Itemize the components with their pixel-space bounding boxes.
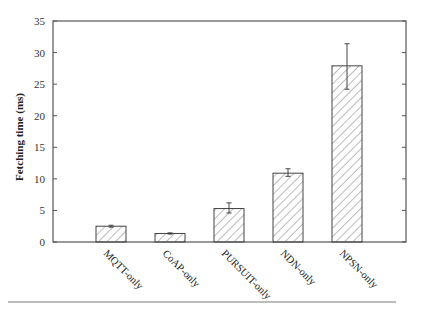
x-tick-label: CoAP-only xyxy=(161,248,203,290)
bar-pursuit-only xyxy=(214,209,244,242)
y-tick-label: 25 xyxy=(34,78,46,90)
x-tick-label: NPSN-only xyxy=(338,248,381,291)
y-tick-label: 0 xyxy=(40,236,46,248)
y-tick-label: 15 xyxy=(34,141,46,153)
bar-ndn-only xyxy=(273,173,303,242)
y-tick-label: 35 xyxy=(34,15,46,27)
x-tick-label: MQTT-only xyxy=(102,248,146,292)
x-tick-label: PURSUIT-only xyxy=(220,248,274,302)
x-tick-label: NDN-only xyxy=(279,248,319,288)
y-tick-label: 5 xyxy=(40,204,46,216)
y-tick-label: 30 xyxy=(34,47,46,59)
bar-chart: 05101520253035MQTT-onlyCoAP-onlyPURSUIT-… xyxy=(0,0,425,316)
bar-coap-only xyxy=(155,233,185,242)
y-tick-label: 10 xyxy=(34,173,46,185)
plot-area: 05101520253035MQTT-onlyCoAP-onlyPURSUIT-… xyxy=(34,15,406,302)
bar-npsn-only xyxy=(332,66,362,242)
y-axis-label: Fetching time (ms) xyxy=(13,93,26,181)
y-tick-label: 20 xyxy=(34,110,46,122)
separator-line xyxy=(8,301,396,303)
bar-mqtt-only xyxy=(96,226,126,242)
